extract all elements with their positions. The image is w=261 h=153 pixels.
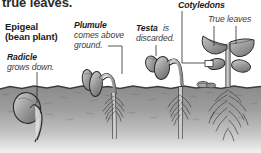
cotyledons-term-label: Cotyledons <box>178 1 225 11</box>
plumule-description-line-1: comes above <box>74 31 124 40</box>
testa-description-line-1: is <box>163 24 169 33</box>
plumule-description-line-2: ground. <box>74 41 102 50</box>
true-leaves-term-label: True leaves <box>208 15 251 24</box>
epigeal-subtitle: (bean plant) <box>5 32 58 42</box>
soil-pebbles <box>197 81 216 88</box>
plumule-term-label: Plumule <box>74 21 107 30</box>
testa-description-line-2: discarded. <box>136 34 175 43</box>
radicle-term-label: Radicle <box>7 53 37 62</box>
cropped-heading-true-leaves: true leaves. <box>2 0 72 10</box>
epigeal-germination-figure: true leaves. Epigeal (bean plant) Radicl… <box>0 0 261 153</box>
testa-term-label: Testa <box>136 24 158 33</box>
radicle-description: grows down. <box>7 63 54 72</box>
